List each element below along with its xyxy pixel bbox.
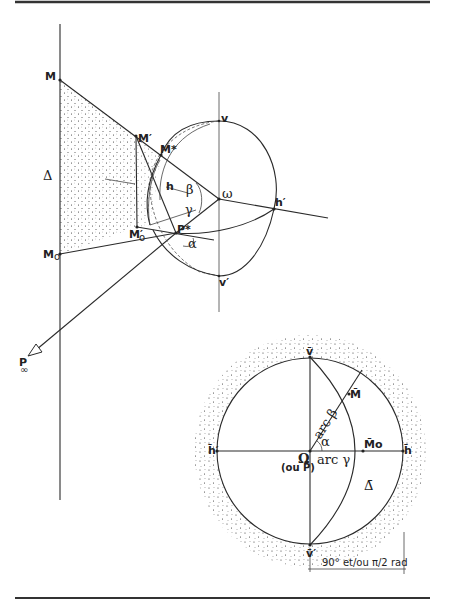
label-h-prime: h′ (275, 196, 286, 209)
label-h-bar: h̄ (404, 444, 412, 457)
label-h-bar-prime: h̄′ (208, 444, 219, 457)
label-M-star: M* (160, 143, 177, 156)
label-h: h (166, 180, 174, 193)
label-M0-bar: M̄o (364, 438, 383, 451)
label-M: M (45, 70, 56, 83)
label-beta: β (186, 182, 194, 197)
label-alpha: α (188, 236, 197, 251)
label-Delta-bar: Δ̄ (364, 478, 373, 493)
label-M0-sub: o (54, 251, 60, 262)
label-delta: Δ (43, 168, 52, 183)
geometry-figure: M M o Δ M′ M′ o M* P* ω h′ v v′ h β γ α … (0, 0, 453, 606)
label-M0: M (43, 248, 54, 261)
label-M0-prime-sub: o (139, 232, 145, 243)
lower-figure: v̄ v̄′ h̄′ h̄ M̄ M̄o Ω (ou P̄) Δ̄ arc β … (180, 320, 450, 590)
label-M-bar: M̄ (350, 388, 361, 401)
label-v-bar-prime: v̄′ (306, 547, 316, 560)
label-omega: ω (222, 186, 233, 201)
label-arc-gamma: arc γ (317, 452, 350, 467)
stippled-cone-region (60, 80, 137, 254)
label-gamma: γ (185, 202, 193, 217)
label-v-prime: v′ (219, 276, 229, 289)
label-alpha-lower: α (321, 434, 330, 449)
label-scale: 90° et/ou π/2 rad (322, 557, 408, 568)
label-P-star: P* (177, 223, 191, 236)
arc-bottom (153, 230, 219, 276)
label-ou-P: (ou P̄) (281, 461, 315, 473)
label-P-inf-sub: ∞ (20, 364, 28, 375)
label-v-bar: v̄ (306, 345, 314, 358)
label-M-prime: M′ (138, 132, 152, 145)
angle-beta-arc (196, 183, 202, 213)
label-v: v (221, 112, 229, 125)
arrowhead-icon (28, 344, 42, 356)
